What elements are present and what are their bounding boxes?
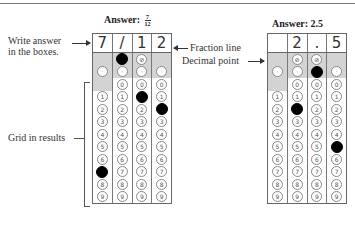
digit-bubble-0[interactable]: 0 — [156, 79, 167, 90]
digit-bubble-8[interactable]: 8 — [117, 179, 128, 190]
fraction-bubble[interactable] — [116, 53, 128, 65]
answer-box[interactable]: . — [308, 34, 328, 52]
digit-bubble-4[interactable]: 4 — [97, 129, 108, 140]
digit-bubble-8[interactable]: 8 — [331, 179, 342, 190]
digit-bubble-6[interactable]: 6 — [136, 154, 147, 165]
grid-cell: 4 — [268, 128, 288, 141]
answer-box[interactable]: 7 — [93, 34, 113, 52]
answer-box[interactable]: 2 — [152, 34, 171, 52]
digit-bubble-6[interactable]: 6 — [117, 154, 128, 165]
digit-bubble-1[interactable]: 1 — [311, 91, 322, 102]
digit-bubble-1[interactable]: 1 — [272, 91, 283, 102]
digit-bubble-4[interactable]: 4 — [292, 129, 303, 140]
digit-bubble-9[interactable]: 9 — [311, 191, 322, 202]
digit-bubble-1[interactable]: 1 — [117, 91, 128, 102]
digit-bubble-5[interactable]: 5 — [292, 141, 303, 152]
digit-bubble-7[interactable]: 7 — [156, 166, 167, 177]
digit-bubble-9[interactable]: 9 — [117, 191, 128, 202]
grid-cell: 3 — [327, 116, 346, 129]
digit-bubble-4[interactable]: 4 — [311, 129, 322, 140]
decimal-bubble[interactable]: · — [272, 66, 283, 77]
digit-bubble-5[interactable]: 5 — [97, 141, 108, 152]
digit-bubble-7[interactable]: 7 — [331, 166, 342, 177]
digit-bubble-0[interactable]: 0 — [117, 79, 128, 90]
digit-bubble-5[interactable]: 5 — [136, 141, 147, 152]
digit-bubble-8[interactable]: 8 — [311, 179, 322, 190]
digit-bubble-0[interactable]: 0 — [136, 79, 147, 90]
fraction-bubble[interactable]: ⊘ — [311, 54, 322, 65]
digit-bubble-8[interactable]: 8 — [156, 179, 167, 190]
digit-bubble-2[interactable]: 2 — [311, 104, 322, 115]
digit-bubble-1[interactable]: 1 — [292, 91, 303, 102]
digit-bubble-3[interactable]: 3 — [136, 116, 147, 127]
digit-bubble-0[interactable]: 0 — [311, 79, 322, 90]
answer-box[interactable] — [268, 34, 288, 52]
digit-bubble-8[interactable]: 8 — [136, 179, 147, 190]
digit-bubble-4[interactable]: 4 — [136, 129, 147, 140]
digit-bubble-1[interactable]: 1 — [331, 91, 342, 102]
digit-bubble-9[interactable]: 9 — [97, 191, 108, 202]
digit-bubble-3[interactable]: 3 — [156, 116, 167, 127]
digit-bubble-2[interactable]: 2 — [272, 104, 283, 115]
digit-bubble-1[interactable] — [136, 91, 148, 103]
digit-bubble-8[interactable]: 8 — [292, 179, 303, 190]
answer-box[interactable]: 5 — [327, 34, 346, 52]
digit-bubble-7[interactable]: 7 — [272, 166, 283, 177]
digit-bubble-3[interactable]: 3 — [272, 116, 283, 127]
digit-bubble-2[interactable]: 2 — [117, 104, 128, 115]
fraction-bubble[interactable]: ⊘ — [292, 54, 303, 65]
digit-bubble-6[interactable]: 6 — [331, 154, 342, 165]
digit-bubble-6[interactable]: 6 — [311, 154, 322, 165]
digit-bubble-9[interactable]: 9 — [272, 191, 283, 202]
digit-bubble-4[interactable]: 4 — [331, 129, 342, 140]
digit-bubble-7[interactable]: 7 — [117, 166, 128, 177]
digit-bubble-9[interactable]: 9 — [136, 191, 147, 202]
answer-box[interactable]: 1 — [133, 34, 153, 52]
digit-bubble-7[interactable]: 7 — [292, 166, 303, 177]
digit-bubble-1[interactable]: 1 — [97, 91, 108, 102]
digit-bubble-8[interactable]: 8 — [272, 179, 283, 190]
digit-bubble-8[interactable]: 8 — [97, 179, 108, 190]
digit-bubble-4[interactable]: 4 — [272, 129, 283, 140]
digit-bubble-3[interactable]: 3 — [331, 116, 342, 127]
digit-bubble-3[interactable]: 3 — [117, 116, 128, 127]
digit-bubble-3[interactable]: 3 — [311, 116, 322, 127]
digit-bubble-9[interactable]: 9 — [331, 191, 342, 202]
digit-bubble-3[interactable]: 3 — [97, 116, 108, 127]
digit-bubble-7[interactable] — [96, 166, 108, 178]
digit-bubble-2[interactable]: 2 — [136, 104, 147, 115]
digit-bubble-3[interactable]: 3 — [292, 116, 303, 127]
digit-bubble-2[interactable] — [156, 103, 168, 115]
decimal-bubble[interactable]: · — [97, 66, 108, 77]
decimal-bubble[interactable]: · — [136, 66, 147, 77]
digit-bubble-5[interactable]: 5 — [117, 141, 128, 152]
digit-bubble-6[interactable]: 6 — [292, 154, 303, 165]
digit-bubble-2[interactable]: 2 — [97, 104, 108, 115]
digit-bubble-6[interactable]: 6 — [272, 154, 283, 165]
digit-bubble-4[interactable]: 4 — [156, 129, 167, 140]
digit-bubble-6[interactable]: 6 — [156, 154, 167, 165]
decimal-bubble[interactable]: · — [292, 66, 303, 77]
digit-bubble-6[interactable]: 6 — [97, 154, 108, 165]
answer-box[interactable]: / — [113, 34, 133, 52]
decimal-bubble[interactable]: · — [117, 66, 128, 77]
answer-box[interactable]: 2 — [288, 34, 308, 52]
digit-bubble-5[interactable]: 5 — [311, 141, 322, 152]
fraction-bubble[interactable]: ⊘ — [136, 54, 147, 65]
digit-bubble-5[interactable]: 5 — [272, 141, 283, 152]
digit-bubble-7[interactable]: 7 — [136, 166, 147, 177]
digit-bubble-0[interactable]: 0 — [331, 79, 342, 90]
digit-bubble-4[interactable]: 4 — [117, 129, 128, 140]
digit-bubble-5[interactable] — [331, 141, 343, 153]
digit-bubble-2[interactable] — [291, 103, 303, 115]
decimal-bubble[interactable] — [311, 66, 323, 78]
digit-bubble-7[interactable]: 7 — [311, 166, 322, 177]
digit-bubble-1[interactable]: 1 — [156, 91, 167, 102]
decimal-bubble[interactable]: · — [331, 66, 342, 77]
digit-bubble-2[interactable]: 2 — [331, 104, 342, 115]
digit-bubble-0[interactable]: 0 — [292, 79, 303, 90]
digit-bubble-5[interactable]: 5 — [156, 141, 167, 152]
digit-bubble-9[interactable]: 9 — [156, 191, 167, 202]
decimal-bubble[interactable]: · — [156, 66, 167, 77]
digit-bubble-9[interactable]: 9 — [292, 191, 303, 202]
